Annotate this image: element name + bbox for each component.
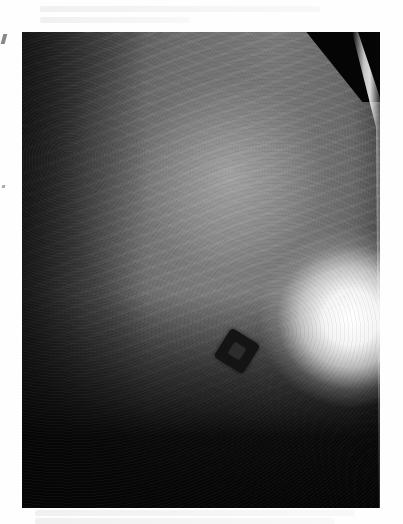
margin-mark [1,34,8,44]
ghost-text-line [35,518,335,524]
marker-inner [227,341,246,360]
margin-mark [2,185,6,188]
ghost-text-line [40,17,190,23]
mammogram-image [22,32,380,508]
ghost-text-line [35,510,355,516]
page [0,0,403,524]
film-grain [22,32,380,508]
ghost-text-line [40,6,320,12]
